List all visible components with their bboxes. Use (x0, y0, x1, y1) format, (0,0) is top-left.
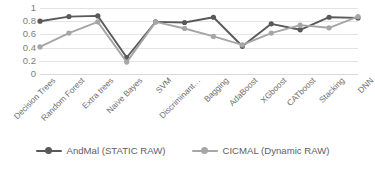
x-axis-tick-text: Stacking (318, 76, 346, 104)
series-line-1 (40, 17, 358, 63)
data-point-marker (124, 60, 129, 65)
y-axis-tick-label: 0 (2, 69, 36, 79)
legend-label: CICMAL (Dynamic RAW) (223, 146, 330, 156)
data-point-marker (298, 23, 303, 28)
y-axis-tick-label: 0.2 (2, 56, 36, 66)
series-layer (40, 8, 358, 74)
x-axis: Decision TreesRandom ForestExtra treesNa… (40, 76, 358, 138)
y-axis: 10.80.60.40.20 (0, 8, 36, 74)
data-point-marker (326, 25, 331, 30)
x-axis-tick-text: DNN (356, 76, 375, 95)
y-axis-tick-label: 0.4 (2, 43, 36, 53)
chart-legend: AndMal (STATIC RAW)CICMAL (Dynamic RAW) (0, 146, 365, 156)
data-point-marker (95, 13, 100, 18)
y-axis-tick-label: 0.8 (2, 16, 36, 26)
data-point-marker (153, 19, 158, 24)
data-point-marker (326, 15, 331, 20)
legend-swatch-icon (36, 146, 62, 156)
data-point-marker (37, 19, 42, 24)
y-axis-tick-label: 1 (2, 3, 36, 13)
data-point-marker (66, 14, 71, 19)
data-point-marker (37, 44, 42, 49)
legend-swatch-icon (192, 146, 218, 156)
data-point-marker (298, 27, 303, 32)
data-point-marker (240, 42, 245, 47)
series-line-0 (40, 16, 358, 58)
data-point-marker (269, 30, 274, 35)
data-point-marker (355, 14, 360, 19)
legend-item[interactable]: AndMal (STATIC RAW) (36, 146, 166, 156)
data-point-marker (182, 26, 187, 31)
plot-area (40, 8, 358, 74)
data-point-marker (211, 15, 216, 20)
data-point-marker (182, 20, 187, 25)
data-point-marker (95, 19, 100, 24)
x-axis-tick-text: SVM (154, 76, 173, 95)
data-point-marker (66, 30, 71, 35)
legend-label: AndMal (STATIC RAW) (67, 146, 166, 156)
data-point-marker (211, 34, 216, 39)
data-point-marker (269, 21, 274, 26)
x-axis-tick-text: Bagging (203, 76, 230, 103)
legend-item[interactable]: CICMAL (Dynamic RAW) (192, 146, 330, 156)
y-axis-tick-label: 0.6 (2, 30, 36, 40)
